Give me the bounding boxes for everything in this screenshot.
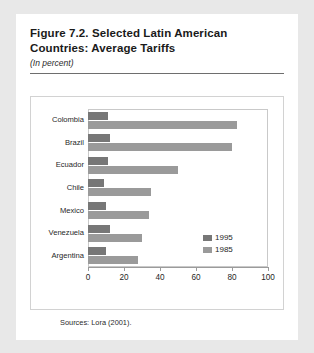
chart-category-row: Chile — [88, 177, 268, 200]
x-tick-mark-40 — [160, 267, 161, 271]
bar-ecuador-1995 — [88, 157, 108, 165]
chart-category-row: Venezuela — [88, 222, 268, 245]
header-divider — [30, 73, 284, 74]
bar-brazil-1985 — [88, 143, 232, 151]
x-tick-mark-20 — [124, 267, 125, 271]
bar-colombia-1995 — [88, 112, 108, 120]
x-tick-label-100: 100 — [261, 273, 275, 282]
chart-legend: 19951985 — [203, 233, 233, 257]
bar-argentina-1985 — [88, 256, 138, 264]
legend-item-1995: 1995 — [203, 233, 233, 242]
category-label-argentina: Argentina — [51, 251, 84, 260]
x-tick-label-80: 80 — [227, 273, 236, 282]
legend-label-1985: 1985 — [215, 245, 233, 254]
category-label-venezuela: Venezuela — [49, 228, 84, 237]
x-tick-label-40: 40 — [155, 273, 164, 282]
page-title: Figure 7.2. Selected Latin American Coun… — [30, 26, 284, 55]
figure-title-line-2: Countries: Average Tariffs — [30, 41, 284, 56]
bar-brazil-1995 — [88, 134, 110, 142]
x-tick-label-0: 0 — [86, 273, 91, 282]
chart-category-row: Brazil — [88, 132, 268, 155]
category-label-mexico: Mexico — [60, 206, 84, 215]
bar-colombia-1985 — [88, 121, 237, 129]
x-tick-mark-0 — [88, 267, 89, 271]
bar-chile-1995 — [88, 179, 104, 187]
chart-category-row: Argentina — [88, 244, 268, 267]
legend-item-1985: 1985 — [203, 245, 233, 254]
legend-swatch-1995 — [203, 235, 212, 241]
x-tick-label-20: 20 — [119, 273, 128, 282]
source-note: Sources: Lora (2001). — [60, 318, 131, 327]
bar-venezuela-1985 — [88, 234, 142, 242]
category-label-colombia: Colombia — [52, 115, 84, 124]
chart-category-row: Mexico — [88, 199, 268, 222]
bar-chile-1985 — [88, 188, 151, 196]
chart-category-row: Ecuador — [88, 154, 268, 177]
category-label-brazil: Brazil — [65, 138, 84, 147]
figure-subtitle: (In percent) — [30, 58, 284, 68]
x-axis-line — [88, 267, 268, 268]
chart-container: ColombiaBrazilEcuadorChileMexicoVenezuel… — [30, 96, 284, 310]
figure-title-line-1: Figure 7.2. Selected Latin American — [30, 26, 284, 41]
x-tick-label-60: 60 — [191, 273, 200, 282]
bar-mexico-1995 — [88, 202, 106, 210]
figure-card: Figure 7.2. Selected Latin American Coun… — [16, 14, 298, 340]
category-label-chile: Chile — [67, 183, 84, 192]
bar-argentina-1995 — [88, 247, 106, 255]
chart-category-row: Colombia — [88, 109, 268, 132]
bar-venezuela-1995 — [88, 225, 110, 233]
bar-mexico-1985 — [88, 211, 149, 219]
bar-ecuador-1985 — [88, 166, 178, 174]
x-tick-mark-100 — [268, 267, 269, 271]
x-tick-mark-80 — [232, 267, 233, 271]
category-label-ecuador: Ecuador — [56, 160, 84, 169]
figure-header: Figure 7.2. Selected Latin American Coun… — [16, 14, 298, 68]
legend-swatch-1985 — [203, 247, 212, 253]
x-tick-mark-60 — [196, 267, 197, 271]
legend-label-1995: 1995 — [215, 233, 233, 242]
